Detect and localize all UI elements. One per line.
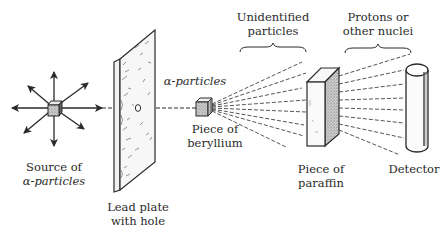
- source-label: Source of α-particles: [14, 160, 94, 188]
- beryllium-label-line2: beryllium: [180, 136, 250, 150]
- lead-plate-label: Lead plate with hole: [98, 200, 178, 228]
- beryllium-label: Piece of beryllium: [180, 122, 250, 150]
- paraffin-block: [307, 68, 339, 146]
- protons-label-line2: other nuclei: [338, 24, 418, 38]
- beryllium-label-line1: Piece of: [180, 122, 250, 136]
- source-label-line2: α-particles: [14, 174, 94, 188]
- paraffin-label-line1: Piece of: [286, 162, 356, 176]
- paraffin-label-line2: paraffin: [286, 176, 356, 190]
- detector-label: Detector: [382, 162, 446, 176]
- unidentified-brace: [240, 43, 306, 52]
- paraffin-label: Piece of paraffin: [286, 162, 356, 190]
- protons-fan: [339, 54, 410, 155]
- unidentified-label: Unidentified particles: [233, 10, 313, 38]
- diagram-canvas: Source of α-particles Lead plate with ho…: [0, 0, 446, 236]
- protons-brace: [345, 44, 411, 53]
- unidentified-label-line2: particles: [233, 24, 313, 38]
- lead-plate: [114, 30, 155, 192]
- alpha-beam-label: α-particles: [160, 74, 230, 88]
- protons-label-line1: Protons or: [338, 10, 418, 24]
- lead-plate-hole: [135, 105, 140, 112]
- source-label-line1: Source of: [14, 160, 94, 174]
- detector-cylinder-icon: [406, 64, 428, 152]
- alpha-beam-text: α-particles: [160, 74, 230, 88]
- detector-text: Detector: [382, 162, 446, 176]
- unidentified-label-line1: Unidentified: [233, 10, 313, 24]
- source-cube-icon: [48, 101, 62, 116]
- lead-plate-label-line2: with hole: [98, 214, 178, 228]
- protons-label: Protons or other nuclei: [338, 10, 418, 38]
- beryllium-cube-icon: [196, 98, 212, 116]
- lead-plate-label-line1: Lead plate: [98, 200, 178, 214]
